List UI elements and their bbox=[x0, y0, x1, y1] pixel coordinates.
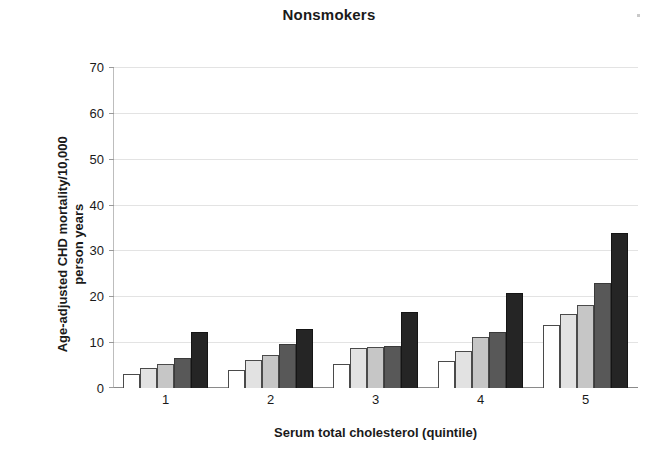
bar-q1-s3 bbox=[157, 364, 174, 388]
bar-q2-s1 bbox=[228, 370, 245, 388]
x-axis-tick-labels: 1 2 3 4 5 bbox=[113, 392, 638, 416]
bar-group-1 bbox=[113, 67, 218, 388]
y-tick-label-50: 50 bbox=[90, 152, 104, 167]
x-tick-label-3: 3 bbox=[323, 392, 428, 416]
bar-q4-s1 bbox=[438, 361, 455, 389]
scan-artifact-speck bbox=[637, 14, 640, 17]
bar-q5-s5 bbox=[611, 233, 628, 388]
bar-q2-s5 bbox=[296, 329, 313, 388]
y-axis: Age-adjusted CHD mortality/10,000 person… bbox=[0, 0, 113, 461]
bar-q1-s2 bbox=[140, 368, 157, 388]
bar-q4-s5 bbox=[506, 293, 523, 388]
bar-q3-s4 bbox=[384, 346, 401, 388]
bar-q2-s4 bbox=[279, 344, 296, 388]
bar-q1-s5 bbox=[191, 332, 208, 388]
bar-q4-s2 bbox=[455, 351, 472, 388]
bar-q4-s4 bbox=[489, 332, 506, 388]
bar-q5-s3 bbox=[577, 305, 594, 388]
bar-group-3 bbox=[323, 67, 428, 388]
bar-q3-s1 bbox=[333, 364, 350, 388]
x-tick-label-1: 1 bbox=[113, 392, 218, 416]
bar-q5-s4 bbox=[594, 283, 611, 388]
y-axis-title-line-2: person years bbox=[71, 94, 87, 394]
x-tick-label-5: 5 bbox=[533, 392, 638, 416]
bar-q2-s2 bbox=[245, 360, 262, 388]
y-tick-label-20: 20 bbox=[90, 289, 104, 304]
y-tick-label-10: 10 bbox=[90, 335, 104, 350]
y-tick-label-0: 0 bbox=[97, 381, 104, 396]
y-tick-label-40: 40 bbox=[90, 198, 104, 213]
bar-q4-s3 bbox=[472, 337, 489, 388]
bar-q2-s3 bbox=[262, 355, 279, 388]
bar-q3-s2 bbox=[350, 348, 367, 388]
bar-q1-s1 bbox=[123, 374, 140, 388]
y-axis-title: Age-adjusted CHD mortality/10,000 person… bbox=[55, 94, 88, 394]
y-axis-title-line-1: Age-adjusted CHD mortality/10,000 bbox=[55, 94, 71, 394]
bar-q3-s3 bbox=[367, 347, 384, 388]
bar-group-5 bbox=[533, 67, 638, 388]
x-tick-label-2: 2 bbox=[218, 392, 323, 416]
bar-q5-s1 bbox=[543, 325, 560, 388]
bar-q5-s2 bbox=[560, 314, 577, 388]
bar-q3-s5 bbox=[401, 312, 418, 388]
y-tick-label-60: 60 bbox=[90, 106, 104, 121]
bar-group-2 bbox=[218, 67, 323, 388]
bar-q1-s4 bbox=[174, 358, 191, 388]
chart-figure: Nonsmokers Age-adjusted CHD mortality/10… bbox=[0, 0, 658, 461]
y-tick-label-30: 30 bbox=[90, 243, 104, 258]
x-axis-title: Serum total cholesterol (quintile) bbox=[113, 425, 638, 440]
x-tick-label-4: 4 bbox=[428, 392, 533, 416]
bar-groups bbox=[113, 67, 638, 388]
y-tick-label-70: 70 bbox=[90, 60, 104, 75]
bar-group-4 bbox=[428, 67, 533, 388]
